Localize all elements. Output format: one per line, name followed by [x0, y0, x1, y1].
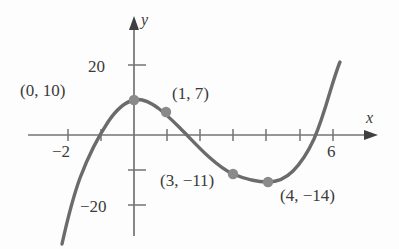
data-point-3-n11: [228, 169, 238, 179]
x-tick-label-neg2: −2: [52, 143, 70, 160]
y-tick-label-neg20: −20: [80, 198, 107, 215]
point-label-3-neg11: (3, −11): [160, 172, 214, 189]
cubic-graph-svg: [0, 0, 399, 249]
point-label-1-7: (1, 7): [172, 85, 209, 102]
point-label-0-10: (0, 10): [20, 82, 65, 99]
point-label-4-neg14: (4, −14): [280, 187, 335, 204]
y-axis-label: y: [141, 12, 148, 28]
y-tick-label-20: 20: [88, 58, 105, 75]
x-axis-arrow-icon: [364, 130, 378, 140]
x-axis-label: x: [366, 110, 373, 126]
y-axis-arrow-icon: [129, 16, 139, 30]
data-point-4-n14: [263, 177, 273, 187]
data-point-1-7: [161, 107, 171, 117]
figure-canvas: y x 20 −20 −2 6 (0, 10) (1, 7) (3, −11) …: [0, 0, 399, 249]
x-tick-label-6: 6: [327, 143, 336, 160]
data-point-0-10: [129, 95, 139, 105]
